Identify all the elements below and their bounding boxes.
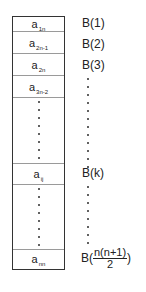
- label-b-3: B(3): [82, 59, 105, 72]
- cell-base: a: [29, 81, 35, 93]
- cell-subscript: 3n-2: [36, 89, 48, 95]
- row-divider: [13, 53, 64, 54]
- fraction: n(n+1)2: [93, 247, 127, 270]
- cell-a-nn: ann: [13, 253, 64, 270]
- memory-array-box: a1n a2n-1 a2n a3n-2 aij ann: [12, 16, 65, 270]
- label-suffix: ): [127, 251, 131, 265]
- cell-a-1n: a1n: [13, 18, 64, 35]
- label-b-k: B(k): [82, 167, 104, 180]
- label-vertical-ellipsis-lower: [87, 182, 89, 244]
- cell-subscript: 2n: [39, 67, 46, 73]
- cell-base: a: [34, 168, 40, 180]
- vertical-ellipsis-upper: [38, 97, 40, 163]
- cell-a-2n-1: a2n-1: [13, 37, 64, 54]
- cell-base: a: [32, 253, 38, 265]
- label-b-2: B(2): [82, 38, 105, 51]
- cell-base: a: [29, 37, 35, 49]
- fraction-denominator: 2: [93, 259, 127, 270]
- cell-subscript: nn: [39, 261, 46, 267]
- label-b-1: B(1): [82, 17, 105, 30]
- cell-subscript: 2n-1: [36, 45, 48, 51]
- row-divider: [13, 163, 64, 164]
- cell-a-2n: a2n: [13, 59, 64, 76]
- label-b-n-n-plus-1-over-2: B(n(n+1)2): [81, 247, 131, 270]
- cell-subscript: ij: [41, 176, 44, 182]
- row-divider: [13, 249, 64, 250]
- cell-a-ij: aij: [13, 168, 64, 185]
- vertical-ellipsis-lower: [38, 184, 40, 248]
- cell-a-3n-2: a3n-2: [13, 81, 64, 98]
- label-vertical-ellipsis-upper: [87, 72, 89, 168]
- cell-base: a: [32, 59, 38, 71]
- cell-base: a: [32, 18, 38, 30]
- row-divider: [13, 75, 64, 76]
- label-prefix: B(: [81, 251, 93, 265]
- row-divider: [13, 31, 64, 32]
